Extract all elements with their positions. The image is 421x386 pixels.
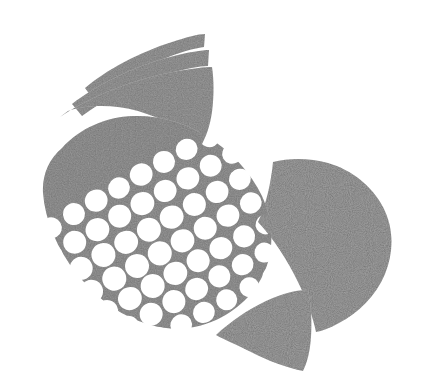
- corn-cob-illustration: Corn cob illustration A stylized graysca…: [0, 0, 421, 386]
- illustration-canvas: Corn cob illustration A stylized graysca…: [0, 0, 421, 386]
